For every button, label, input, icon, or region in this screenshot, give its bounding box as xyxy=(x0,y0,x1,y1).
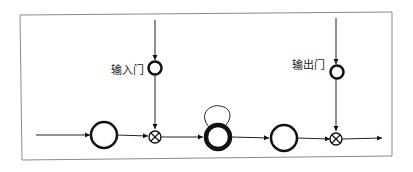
cell-to-output-arrow xyxy=(232,137,269,138)
neuron-to-multiply-arrow xyxy=(117,135,148,136)
memory-cell-neuron xyxy=(206,125,230,149)
output-neuron xyxy=(271,125,297,151)
input-gate-label: 输入门 xyxy=(111,61,144,77)
output-multiply-icon xyxy=(330,133,342,145)
output-gate-label: 输出门 xyxy=(292,56,325,72)
output-gate-node xyxy=(331,66,344,79)
input-gate-node xyxy=(149,62,162,75)
input-multiply-icon xyxy=(149,131,161,143)
output-to-multiply-arrow xyxy=(297,138,330,139)
input-neuron xyxy=(91,122,117,148)
lstm-diagram xyxy=(0,0,413,172)
final-output-arrow xyxy=(342,138,382,139)
